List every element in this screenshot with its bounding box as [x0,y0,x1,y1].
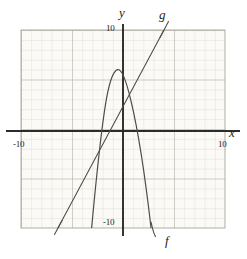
y-tick-neg10: -10 [103,218,114,227]
graph-figure: y x g f 10 -10 -10 10 [0,0,247,259]
x-tick-10: 10 [218,140,227,149]
plot-canvas [0,0,247,259]
curve-g-label: g [159,8,166,21]
y-tick-10: 10 [106,24,115,33]
curve-f-label: f [165,234,169,247]
x-tick-neg10: -10 [13,140,24,149]
x-axis-label: x [229,126,235,139]
y-axis-label: y [119,6,125,19]
